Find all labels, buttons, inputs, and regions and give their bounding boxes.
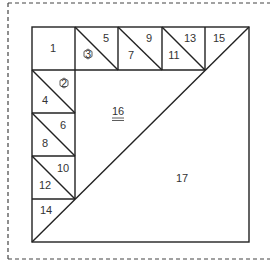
quilt-block-diagram: 1 2 3 4 5 6 7 8 9 10 11 12 13 14 15 16 1…	[0, 0, 270, 265]
piece-label-6: 6	[60, 119, 66, 131]
dashed-border	[8, 3, 270, 259]
piece-label-14: 14	[40, 204, 52, 216]
piece-label-16: 16	[112, 105, 124, 117]
piece-label-9: 9	[146, 32, 152, 44]
piece-label-8: 8	[42, 137, 48, 149]
piece-label-15: 15	[213, 32, 225, 44]
piece-label-7: 7	[128, 49, 134, 61]
piece-label-17: 17	[176, 172, 188, 184]
piece-label-10: 10	[57, 162, 69, 174]
piece-label-13: 13	[184, 32, 196, 44]
piece-label-2: 2	[61, 77, 67, 89]
piece-label-4: 4	[42, 94, 48, 106]
piece-labels: 1 2 3 4 5 6 7 8 9 10 11 12 13 14 15 16 1…	[39, 32, 225, 216]
block-lines	[32, 27, 249, 242]
piece-label-3: 3	[85, 48, 91, 60]
piece-label-11: 11	[168, 49, 179, 61]
piece-label-1: 1	[50, 42, 56, 54]
piece-label-5: 5	[103, 32, 109, 44]
piece-label-12: 12	[39, 179, 51, 191]
